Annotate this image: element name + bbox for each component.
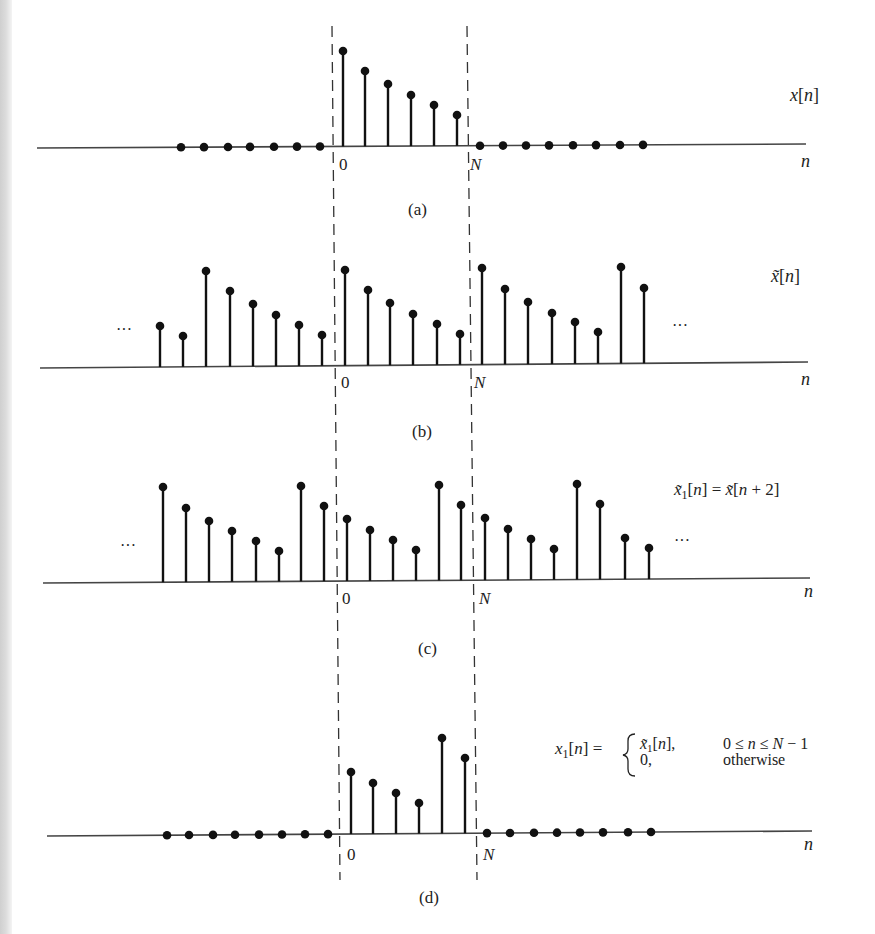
axis-label-n: n — [804, 581, 813, 601]
stem-dot — [297, 482, 306, 491]
stem-dot — [320, 502, 329, 511]
n-axis — [47, 831, 812, 836]
stem-dot — [272, 311, 281, 320]
brace-icon — [623, 734, 635, 776]
stem-dot — [573, 480, 582, 489]
zero-sample-dot — [278, 830, 287, 839]
stem-dot — [343, 515, 352, 524]
panel-c: ······0Nn(c) — [43, 480, 813, 658]
axis-label-n: n — [801, 369, 810, 389]
continuation-ellipsis: ··· — [674, 532, 690, 549]
periodic-shift-figure: 0Nn(a)······0Nn(b)······0Nn(c)0Nn(d)x[n]… — [0, 0, 875, 934]
zero-sample-dot — [624, 828, 633, 837]
svg-text:0,: 0, — [640, 751, 652, 768]
zero-sample-dot — [316, 142, 325, 151]
signal-label-x-tilde: x̃[n] — [770, 266, 800, 286]
panel-caption: (d) — [419, 888, 439, 907]
stem-dot — [645, 544, 654, 553]
axis-label-n: n — [801, 151, 810, 171]
stem-dot — [596, 500, 605, 509]
zero-sample-dot — [506, 829, 515, 838]
stem-dot — [453, 111, 462, 120]
stem-dot — [318, 331, 327, 340]
zero-sample-dot — [231, 830, 240, 839]
stem-dot — [438, 734, 447, 743]
stem-dot — [617, 263, 626, 272]
n-axis — [37, 144, 806, 148]
piecewise-equation: x1[n] =x̃1[n],0 ≤ n ≤ N − 10,otherwise — [554, 734, 808, 776]
panel-b: ······0Nn(b) — [40, 263, 810, 441]
panel-caption: (a) — [408, 200, 427, 219]
stem-dot — [524, 298, 533, 307]
stem-dot — [182, 504, 191, 513]
svg-text:0 ≤ n ≤ N − 1: 0 ≤ n ≤ N − 1 — [723, 735, 808, 752]
axis-label-n: n — [804, 834, 813, 854]
stem-dot — [457, 501, 466, 510]
tick-label-N: N — [469, 155, 483, 174]
stem-dot — [369, 779, 378, 788]
zero-sample-dot — [553, 828, 562, 837]
zero-sample-dot — [324, 830, 333, 839]
stem-dot — [366, 526, 375, 535]
stem-dot — [430, 101, 439, 110]
zero-sample-dot — [209, 831, 218, 840]
stem-dot — [478, 264, 487, 273]
stem-dot — [226, 287, 235, 296]
stem-dot — [501, 285, 510, 294]
stem-dot — [640, 284, 649, 293]
stem-dot — [205, 517, 214, 526]
zero-sample-dot — [592, 141, 601, 150]
stem-dot — [339, 47, 348, 56]
panel-d: 0Nn(d) — [47, 734, 813, 907]
stem-dot — [571, 318, 580, 327]
stem-dot — [392, 789, 401, 798]
stem-dot — [179, 332, 188, 341]
zero-sample-dot — [200, 143, 209, 152]
stem-dot — [456, 330, 465, 339]
tick-label-zero: 0 — [342, 589, 351, 608]
zero-sample-dot — [270, 142, 279, 151]
zero-sample-dot — [224, 143, 233, 152]
stem-dot — [548, 309, 557, 318]
zero-sample-dot — [163, 831, 172, 840]
tick-label-N: N — [478, 589, 492, 608]
stem-dot — [364, 286, 373, 295]
stem-dot — [386, 299, 395, 308]
tick-label-N: N — [473, 373, 487, 392]
stem-dot — [550, 545, 559, 554]
zero-sample-dot — [246, 143, 255, 152]
signal-label-x: x[n] — [789, 85, 819, 105]
stem-dot — [361, 67, 370, 76]
stem-dot — [415, 799, 424, 808]
stem-dot — [347, 768, 356, 777]
stem-dot — [384, 80, 393, 89]
zero-sample-dot — [499, 141, 508, 150]
stem-dot — [249, 300, 258, 309]
stem-dot — [435, 481, 444, 490]
stem-dot — [159, 483, 168, 492]
stem-dot — [275, 547, 284, 556]
stem-dot — [504, 525, 513, 534]
stem-dot — [407, 91, 416, 100]
tick-label-zero: 0 — [347, 845, 356, 864]
stem-dot — [481, 514, 490, 523]
stem-dot — [228, 527, 237, 536]
zero-sample-dot — [293, 142, 302, 151]
signal-label-shift-equation: x̃1[n] = x̃[n + 2] — [673, 480, 779, 502]
stem-dot — [156, 322, 165, 331]
zero-sample-dot — [616, 141, 625, 150]
zero-sample-dot — [545, 141, 554, 150]
stem-dot — [594, 328, 603, 337]
stem-dot — [621, 534, 630, 543]
stem-dot — [341, 266, 350, 275]
zero-sample-dot — [185, 831, 194, 840]
stem-dot — [202, 267, 211, 276]
svg-text:x1[n] =: x1[n] = — [554, 739, 602, 761]
stem-dot — [389, 536, 398, 545]
svg-text:otherwise: otherwise — [723, 751, 785, 768]
stem-dot — [409, 310, 418, 319]
zero-sample-dot — [522, 141, 531, 150]
figure-page: 0Nn(a)······0Nn(b)······0Nn(c)0Nn(d)x[n]… — [0, 0, 875, 934]
panel-a: 0Nn(a) — [37, 47, 810, 219]
zero-sample-dot — [483, 829, 492, 838]
